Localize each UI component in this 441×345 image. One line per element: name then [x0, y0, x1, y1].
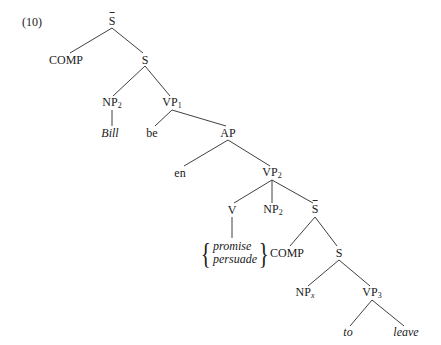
edge	[308, 260, 339, 286]
node-comp-lower: COMP	[270, 247, 304, 259]
node-en: en	[174, 167, 185, 179]
node-be: be	[146, 127, 157, 139]
node-np2: NP2	[102, 96, 121, 110]
left-brace-icon: {	[201, 238, 211, 268]
edge	[113, 66, 145, 96]
edge	[155, 110, 172, 126]
node-v: V	[228, 204, 237, 216]
node-comp: COMP	[49, 54, 83, 66]
edge	[290, 217, 315, 246]
edge	[145, 66, 170, 96]
edge	[372, 300, 404, 326]
node-label: VP	[162, 95, 177, 109]
node-subscript: 2	[279, 208, 283, 217]
node-subscript: 1	[178, 101, 182, 110]
example-number: (10)	[22, 16, 42, 28]
node-s: S	[142, 54, 149, 66]
edge	[172, 110, 226, 126]
node-vp1: VP1	[162, 96, 181, 110]
node-s-lower: S	[336, 247, 343, 259]
verb-options-brace: { promise persuade }	[199, 238, 272, 268]
node-leave: leave	[393, 326, 418, 338]
edge	[272, 180, 313, 203]
node-label: S	[109, 15, 116, 27]
node-sbar-lower: S	[312, 203, 319, 215]
edge	[234, 180, 272, 203]
edge	[184, 140, 228, 166]
node-label: NP	[102, 95, 117, 109]
node-subscript: 3	[378, 291, 382, 300]
node-subscript: 2	[118, 101, 122, 110]
node-label: S	[312, 203, 319, 215]
edge	[70, 28, 112, 53]
node-label: NP	[263, 202, 278, 216]
edge	[228, 140, 270, 166]
node-vp2: VP2	[262, 166, 281, 180]
node-label: VP	[362, 285, 377, 299]
edge	[339, 260, 370, 286]
node-np2-object: NP2	[263, 203, 282, 217]
node-ap: AP	[220, 127, 235, 139]
edge	[112, 28, 143, 53]
node-to: to	[343, 326, 352, 338]
node-bill: Bill	[101, 127, 118, 139]
node-subscript: 2	[278, 171, 282, 180]
node-sbar-top: S	[109, 15, 116, 27]
node-label: NP	[296, 285, 311, 299]
node-label: VP	[262, 165, 277, 179]
verb-option: persuade	[213, 253, 257, 266]
node-vp3: VP3	[362, 286, 381, 300]
edge	[315, 217, 337, 246]
node-subscript: x	[311, 291, 315, 300]
right-brace-icon: }	[259, 238, 269, 268]
edge	[350, 300, 372, 326]
node-npx: NPx	[296, 286, 315, 300]
